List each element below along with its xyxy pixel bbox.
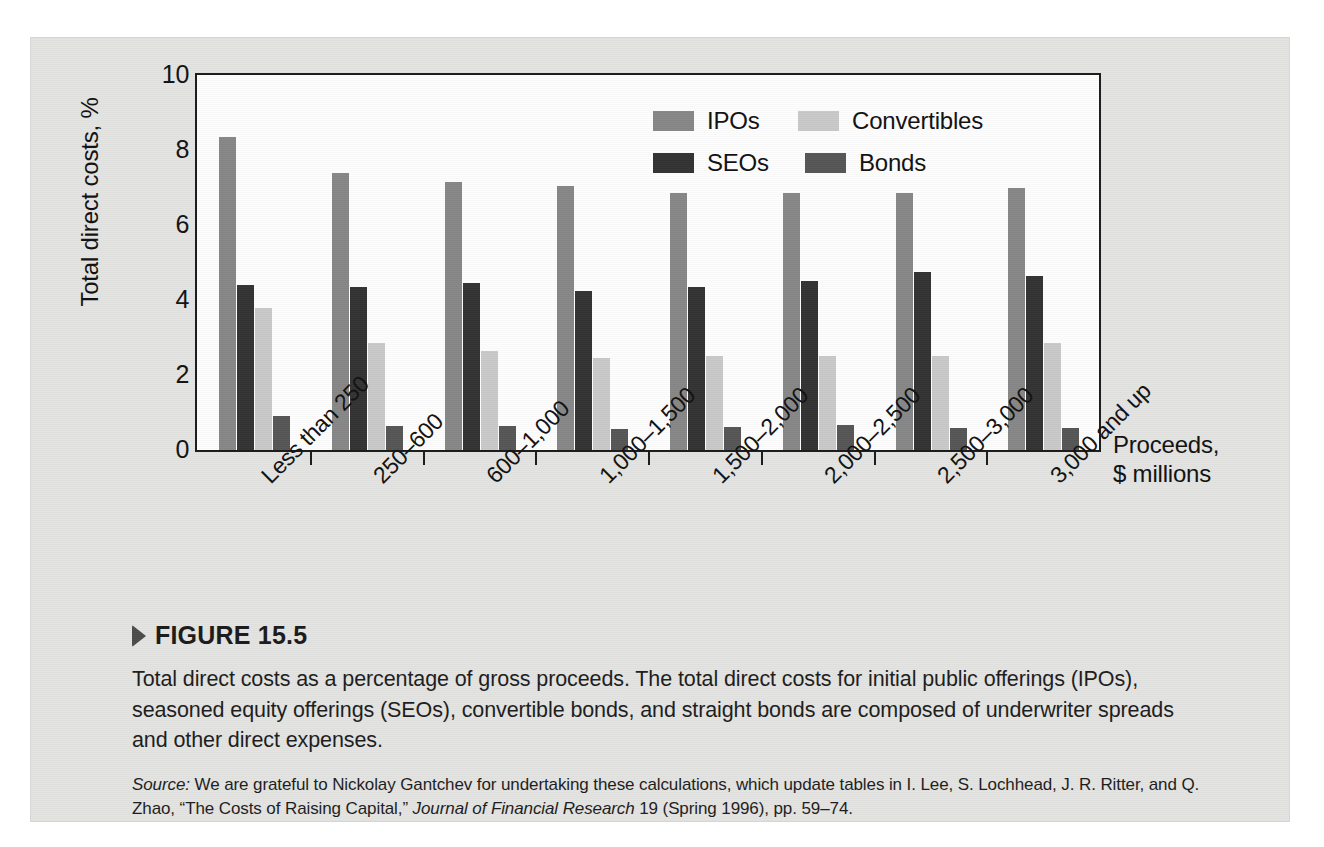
legend-label: Convertibles [852, 107, 983, 135]
bar-seos [575, 291, 592, 450]
bar-convertibles [481, 351, 498, 450]
bar-group [423, 75, 536, 450]
y-axis: 0246810 [129, 38, 189, 488]
y-tick-label: 6 [131, 212, 189, 237]
bar-seos [350, 287, 367, 450]
bar-seos [463, 283, 480, 450]
bar-seos [688, 287, 705, 450]
x-axis-title-line2: $ millions [1113, 459, 1219, 488]
bar-group [986, 75, 1099, 450]
legend-label: SEOs [707, 149, 769, 177]
figure-heading: FIGURE 15.5 [132, 621, 1212, 650]
legend-swatch-icon [805, 153, 846, 173]
bar-convertibles [593, 358, 610, 450]
source-label: Source: [132, 775, 190, 794]
bar-seos [237, 285, 254, 450]
bar-ipos [219, 137, 236, 450]
legend-swatch-icon [653, 111, 694, 131]
figure-source-text: Source: We are grateful to Nickolay Gant… [132, 773, 1212, 822]
y-tick-label: 8 [131, 137, 189, 162]
legend-item-bonds: Bonds [805, 149, 926, 177]
y-tick-label: 0 [131, 437, 189, 462]
bar-seos [1026, 276, 1043, 450]
source-tail: 19 (Spring 1996), pp. 59–74. [639, 799, 853, 818]
x-tick-mark [986, 452, 988, 465]
bar-convertibles [706, 356, 723, 450]
x-tick-mark [874, 452, 876, 465]
figure-caption-text: Total direct costs as a percentage of gr… [132, 664, 1212, 756]
y-axis-title: Total direct costs, % [76, 37, 104, 367]
bar-seos [801, 281, 818, 450]
legend-label: IPOs [707, 107, 760, 135]
legend-label: Bonds [859, 149, 926, 177]
bar-convertibles [368, 343, 385, 450]
chart-legend: IPOsConvertiblesSEOsBonds [653, 104, 983, 188]
bar-convertibles [1044, 343, 1061, 450]
chart-region: 0246810 Total direct costs, % Less than … [31, 38, 1289, 598]
triangle-right-icon [132, 625, 146, 647]
y-tick-label: 10 [131, 62, 189, 87]
legend-item-seos: SEOs [653, 149, 805, 177]
x-tick-mark [423, 452, 425, 465]
legend-swatch-icon [653, 153, 694, 173]
legend-row: IPOsConvertibles [653, 104, 983, 138]
legend-item-convertibles: Convertibles [798, 107, 983, 135]
legend-row: SEOsBonds [653, 146, 983, 180]
x-tick-mark [648, 452, 650, 465]
figure-title: FIGURE 15.5 [155, 621, 307, 650]
source-journal: Journal of Financial Research [413, 799, 635, 818]
bar-group [197, 75, 310, 450]
bar-convertibles [255, 308, 272, 451]
bar-ipos [445, 182, 462, 450]
x-axis-title-line1: Proceeds, [1113, 430, 1219, 459]
legend-item-ipos: IPOs [653, 107, 798, 135]
bar-seos [914, 272, 931, 450]
y-tick-label: 4 [131, 287, 189, 312]
bar-convertibles [819, 356, 836, 450]
x-axis-title: Proceeds, $ millions [1113, 430, 1219, 489]
figure-caption-block: FIGURE 15.5 Total direct costs as a perc… [132, 621, 1212, 822]
figure-card: 0246810 Total direct costs, % Less than … [31, 38, 1289, 821]
legend-swatch-icon [798, 111, 839, 131]
bar-group [535, 75, 648, 450]
x-tick-mark [535, 452, 537, 465]
bar-convertibles [932, 356, 949, 450]
y-tick-label: 2 [131, 362, 189, 387]
